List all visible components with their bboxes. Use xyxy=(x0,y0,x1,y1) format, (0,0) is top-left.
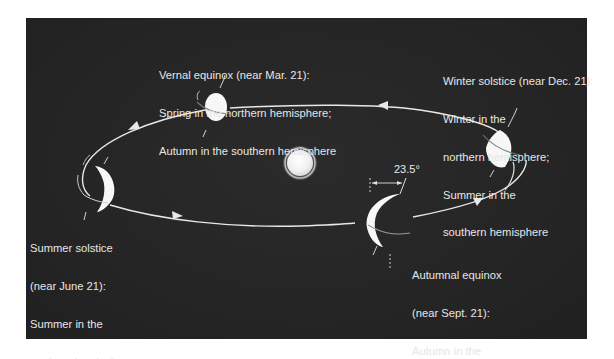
label-summer-solstice: Summer solstice (near June 21): Summer i… xyxy=(30,217,136,359)
arrow-down-left-icon xyxy=(128,121,140,130)
label-autumnal-equinox: Autumnal equinox (near Sept. 21): Autumn… xyxy=(412,244,518,359)
autumnal-date: (near Sept. 21): xyxy=(412,307,518,320)
winter-title: Winter solstice (near Dec. 21): xyxy=(443,75,593,88)
autumnal-line-1: Autumn in the xyxy=(412,345,518,358)
vernal-title: Vernal equinox (near Mar. 21): xyxy=(159,69,336,82)
autumnal-title: Autumnal equinox xyxy=(412,269,518,282)
vernal-line-1: Spring in the northern hemisphere; xyxy=(159,107,336,120)
summer-line-1: Summer in the xyxy=(30,318,136,331)
earth-autumnal-icon xyxy=(367,178,410,270)
arrow-left-icon xyxy=(378,101,388,110)
winter-line-1: Winter in the xyxy=(443,113,593,126)
winter-line-4: southern hemisphere xyxy=(443,226,593,239)
label-winter-solstice: Winter solstice (near Dec. 21): Winter i… xyxy=(443,50,593,252)
winter-line-2: northern hemisphere; xyxy=(443,151,593,164)
vernal-line-2: Autumn in the southern hemisphere xyxy=(159,145,336,158)
summer-title: Summer solstice xyxy=(30,242,136,255)
summer-line-2: northern hemisphere; xyxy=(30,356,136,359)
summer-date: (near June 21): xyxy=(30,280,136,293)
winter-line-3: Summer in the xyxy=(443,189,593,202)
arrow-right-icon xyxy=(172,211,183,219)
tilt-angle-label: 23.5° xyxy=(394,163,420,175)
label-vernal-equinox: Vernal equinox (near Mar. 21): Spring in… xyxy=(159,44,336,170)
